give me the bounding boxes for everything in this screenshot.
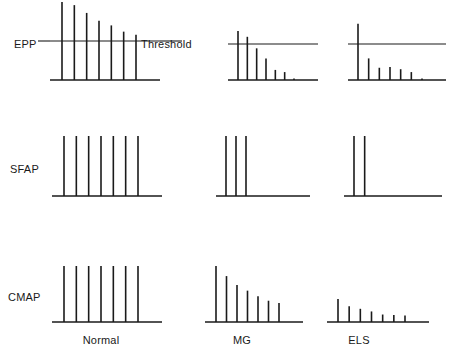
threshold-leader-line bbox=[160, 39, 220, 43]
panel-epp-els bbox=[348, 6, 448, 84]
epp-label-leader-line bbox=[38, 39, 54, 43]
panel-sfap-els bbox=[344, 134, 444, 200]
row-label-cmap: CMAP bbox=[8, 291, 41, 303]
panel-cmap-normal bbox=[52, 264, 164, 326]
figure-canvas: EPP SFAP CMAP Threshold Normal MG ELS bbox=[0, 0, 451, 364]
panel-sfap-mg bbox=[216, 134, 312, 200]
panel-epp-normal bbox=[50, 0, 162, 84]
stick-plot-sfap-mg bbox=[216, 134, 312, 200]
stick-plot-sfap-els bbox=[344, 134, 444, 200]
panel-epp-mg bbox=[228, 6, 320, 84]
stick-plot-cmap-normal bbox=[52, 264, 164, 326]
panel-cmap-mg bbox=[205, 264, 305, 326]
stick-plot-epp-els bbox=[348, 6, 448, 84]
stick-plot-epp-normal bbox=[50, 0, 162, 84]
column-label-mg: MG bbox=[199, 334, 285, 346]
column-label-normal: Normal bbox=[58, 334, 144, 346]
row-label-sfap: SFAP bbox=[10, 163, 39, 175]
stick-plot-cmap-els bbox=[327, 276, 431, 326]
stick-plot-epp-mg bbox=[228, 6, 320, 84]
stick-plot-sfap-normal bbox=[52, 134, 164, 200]
stick-plot-cmap-mg bbox=[205, 264, 305, 326]
panel-sfap-normal bbox=[52, 134, 164, 200]
column-label-els: ELS bbox=[316, 334, 402, 346]
panel-cmap-els bbox=[327, 276, 431, 326]
row-label-epp: EPP bbox=[14, 38, 37, 50]
